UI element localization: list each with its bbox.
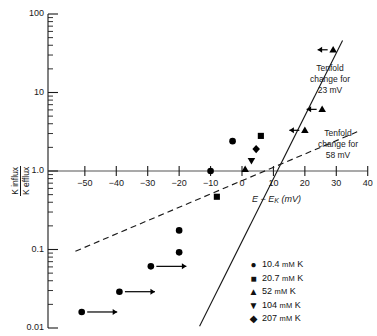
data-point-triangle-up <box>318 106 326 112</box>
x-axis-title-subscript: K <box>274 197 279 204</box>
annotation-tenfold-58mv: Tenfoldchange for58 mV <box>298 128 377 161</box>
legend-label: 52 mM K <box>260 285 296 299</box>
legend-value: 20.7 <box>262 273 282 283</box>
legend-unit: mM <box>275 287 290 296</box>
data-point-circle <box>229 138 236 145</box>
annotation-line: Tenfold <box>298 128 377 139</box>
legend-unit: mM <box>280 301 295 310</box>
data-point-square <box>258 133 264 139</box>
y-tick-label: 100 <box>2 9 44 18</box>
legend-value: 52 <box>262 286 275 296</box>
legend-marker-icon: ▲ <box>247 285 260 299</box>
data-point-arrow-head <box>318 47 323 53</box>
legend-species: K <box>295 313 301 323</box>
legend-marker-icon: ▼ <box>247 299 260 313</box>
data-point-arrow-head <box>150 289 155 295</box>
legend-unit: mM <box>280 314 295 323</box>
legend-unit: mM <box>282 260 297 269</box>
data-point-circle <box>78 309 85 316</box>
x-tick-label: −20 <box>164 179 194 188</box>
x-tick-label: 40 <box>353 179 377 188</box>
x-axis-title-main: E − E <box>252 194 274 204</box>
legend-item: ▲52 mM K <box>247 285 303 299</box>
x-tick-label: −50 <box>70 179 100 188</box>
legend-value: 207 <box>262 313 280 323</box>
data-point-circle <box>148 263 155 270</box>
annotation-line: 58 mV <box>298 150 377 161</box>
data-point-square <box>214 194 220 200</box>
data-point-arrow-head <box>289 127 294 133</box>
data-point-circle <box>176 227 183 234</box>
data-point-arrow-head <box>182 263 187 269</box>
legend-value: 10.4 <box>262 259 282 269</box>
x-axis-title: E − EK (mV) <box>252 195 301 204</box>
legend-label: 20.7 mM K <box>260 272 303 286</box>
annotation-line: 23 mV <box>290 85 370 96</box>
data-point-arrow-head <box>113 309 118 315</box>
annotation-tenfold-23mv: Tenfoldchange for23 mV <box>290 63 370 96</box>
legend-marker-icon: ◆ <box>247 312 260 326</box>
legend-item: ◆207 mM K <box>247 312 303 326</box>
data-point-circle <box>207 168 214 175</box>
legend-species: K <box>295 300 301 310</box>
annotation-line: Tenfold <box>290 63 370 74</box>
x-tick-label: −40 <box>101 179 131 188</box>
y-axis-title-numerator: K influx <box>10 166 21 196</box>
legend-marker-icon: ■ <box>247 272 260 286</box>
data-point-circle <box>116 288 123 295</box>
y-tick-label: 0.1 <box>2 245 44 254</box>
y-tick-label: 10 <box>2 88 44 97</box>
legend-unit: mM <box>282 274 297 283</box>
data-point-triangle-up <box>329 46 337 52</box>
data-point-triangle-down <box>248 158 256 164</box>
x-tick-label: 20 <box>290 179 320 188</box>
x-axis-title-units: (mV) <box>281 194 301 204</box>
legend-value: 104 <box>262 300 280 310</box>
legend-label: 10.4 mM K <box>260 258 303 272</box>
y-axis-title: K influx K efflux <box>10 166 31 196</box>
data-point-diamond <box>252 145 260 153</box>
legend-item: ■20.7 mM K <box>247 272 303 286</box>
x-tick-label: 30 <box>321 179 351 188</box>
legend-label: 207 mM K <box>260 312 301 326</box>
legend-marker-icon: ● <box>247 258 260 272</box>
legend-item: ●10.4 mM K <box>247 258 303 272</box>
y-tick-label: 0.01 <box>2 323 44 332</box>
legend-species: K <box>290 286 296 296</box>
legend-species: K <box>297 259 303 269</box>
x-tick-label: 10 <box>258 179 288 188</box>
legend-label: 104 mM K <box>260 299 301 313</box>
annotation-line: change for <box>290 74 370 85</box>
data-point-circle <box>176 249 183 256</box>
x-tick-label: 0 <box>227 179 257 188</box>
chart-legend: ●10.4 mM K■20.7 mM K▲52 mM K▼104 mM K◆20… <box>247 258 303 326</box>
y-axis-title-denominator: K efflux <box>21 166 31 196</box>
legend-species: K <box>297 273 303 283</box>
annotation-line: change for <box>298 139 377 150</box>
plot-area <box>0 0 377 336</box>
x-tick-label: −30 <box>133 179 163 188</box>
legend-item: ▼104 mM K <box>247 299 303 313</box>
x-tick-label: −10 <box>196 179 226 188</box>
chart-container: 100101.00.10.01 K influx K efflux E − EK… <box>0 0 377 336</box>
